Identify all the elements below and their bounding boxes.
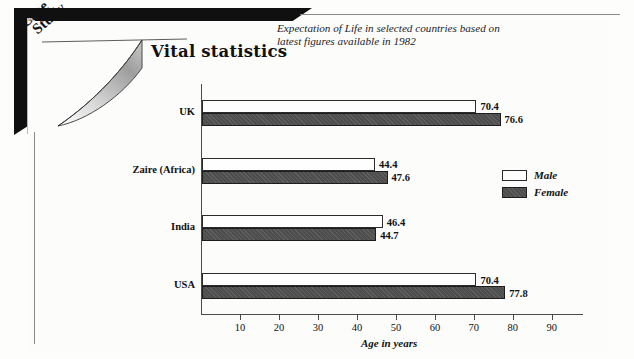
bar-value-label: 44.7 (380, 229, 398, 240)
x-tick-label: 40 (342, 322, 372, 333)
x-tick-label: 10 (225, 322, 255, 333)
legend-item-male: Male (502, 168, 568, 182)
x-tick-mark (552, 315, 553, 320)
bar-value-label: 47.6 (392, 172, 410, 183)
x-tick-label: 90 (537, 322, 567, 333)
x-tick-mark (474, 315, 475, 320)
x-tick-mark (435, 315, 436, 320)
bar-female: 76.6 (202, 113, 501, 126)
x-tick-mark (357, 315, 358, 320)
bar-value-label: 76.6 (505, 114, 523, 125)
category-label: Zaire (Africa) (133, 164, 196, 175)
chart-legend: Male Female (502, 168, 568, 202)
bar-value-label: 70.4 (480, 274, 498, 285)
bar-group: UK70.476.6 (201, 84, 561, 142)
legend-item-female: Female (502, 185, 568, 199)
dark-square-icon (502, 187, 527, 198)
x-tick-label: 20 (264, 322, 294, 333)
bar-value-label: 70.4 (480, 101, 498, 112)
bar-group: India46.444.7 (201, 200, 561, 258)
x-tick-label: 30 (303, 322, 333, 333)
bar-female: 77.8 (202, 286, 505, 299)
rule-left (34, 132, 35, 344)
bar-female: 47.6 (202, 171, 388, 184)
x-axis-title: Age in years (361, 337, 417, 349)
case-study-figure: Case Study Vital statistics Expectation … (0, 0, 634, 359)
x-tick-mark (513, 315, 514, 320)
x-tick-label: 60 (420, 322, 450, 333)
x-tick-label: 80 (498, 322, 528, 333)
bar-male: 70.4 (202, 273, 476, 286)
x-tick-label: 50 (381, 322, 411, 333)
white-square-icon (502, 170, 527, 181)
legend-label-female: Female (534, 186, 568, 198)
bar-value-label: 46.4 (387, 216, 405, 227)
bar-value-label: 44.4 (379, 159, 397, 170)
x-tick-label: 70 (459, 322, 489, 333)
bar-male: 70.4 (202, 100, 476, 113)
bar-male: 44.4 (202, 158, 375, 171)
bar-value-label: 77.8 (509, 287, 527, 298)
bar-female: 44.7 (202, 228, 376, 241)
x-tick-mark (396, 315, 397, 320)
x-tick-mark (240, 315, 241, 320)
page-curl-icon (36, 34, 152, 132)
chart-subtitle: Expectation of Life in selected countrie… (277, 22, 507, 49)
rule-top (300, 14, 620, 15)
category-label: USA (174, 279, 195, 290)
chart-title: Vital statistics (151, 42, 287, 61)
x-tick-mark (318, 315, 319, 320)
category-label: UK (179, 106, 195, 117)
category-label: India (171, 221, 195, 232)
legend-label-male: Male (534, 169, 557, 181)
bar-male: 46.4 (202, 215, 383, 228)
bar-group: USA70.477.8 (201, 257, 561, 315)
x-tick-mark (279, 315, 280, 320)
